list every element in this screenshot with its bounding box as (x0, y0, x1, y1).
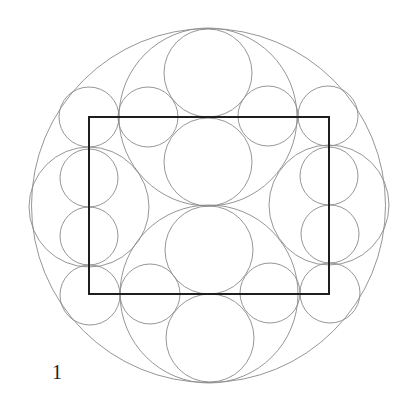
figure-number-label: 1 (52, 362, 62, 382)
circle-packing-diagram (0, 0, 413, 401)
large-circle (166, 294, 254, 382)
large-circle (164, 118, 252, 206)
large-circles (164, 29, 254, 382)
small-circles (59, 86, 360, 325)
large-circle (164, 29, 252, 117)
large-circle (165, 206, 253, 294)
